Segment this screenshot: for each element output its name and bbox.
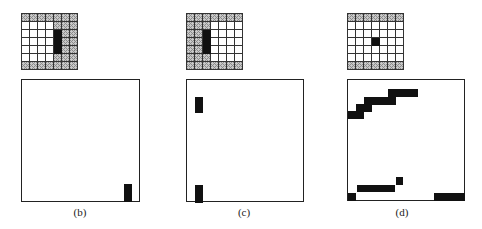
grid-cell [388,22,396,30]
grid-cell [388,62,396,70]
grid-cell [38,30,46,38]
grid-cell [219,30,227,38]
grid-cell [364,46,372,54]
grid-cell [219,22,227,30]
grid-cell [203,14,211,22]
grid-cell [388,46,396,54]
grid-cell [195,46,203,54]
grid-cell [364,30,372,38]
grid-cell [372,30,380,38]
output-box-d [347,79,465,201]
grid-cell [30,54,38,62]
grid-cell [364,62,372,70]
grid-cell [235,46,243,54]
grid-cell [356,22,364,30]
grid-cell [227,54,235,62]
response-block [124,184,132,202]
grid-cell [380,14,388,22]
grid-cell [396,46,404,54]
grid-cell [356,62,364,70]
grid-cell [364,54,372,62]
grid-cell [203,54,211,62]
caption-b: (b) [60,206,100,218]
grid-cell [195,14,203,22]
grid-cell [187,62,195,70]
grid-cell [54,54,62,62]
response-block [195,97,203,113]
grid-cell [364,38,372,46]
grid-cell [348,62,356,70]
grid-cell [396,30,404,38]
grid-cell [372,38,380,46]
grid-cell [348,30,356,38]
grid-cell [70,46,78,54]
grid-cell [219,62,227,70]
grid-cell [22,14,30,22]
grid-cell [380,46,388,54]
grid-cell [54,38,62,46]
grid-cell [211,22,219,30]
grid-cell [187,30,195,38]
grid-cell [70,38,78,46]
grid-cell [46,14,54,22]
grid-cell [62,38,70,46]
grid-cell [187,38,195,46]
grid-cell [364,22,372,30]
response-block [195,185,203,203]
grid-cell [211,14,219,22]
grid-cell [380,30,388,38]
grid-cell [348,14,356,22]
grid-cell [46,54,54,62]
grid-cell [227,22,235,30]
grid-cell [38,62,46,70]
grid-cell [348,22,356,30]
grid-cell [372,62,380,70]
grid-cell [54,62,62,70]
grid-cell [388,14,396,22]
grid-cell [235,38,243,46]
grid-cell [62,46,70,54]
grid-cell [372,46,380,54]
grid-cell [30,46,38,54]
grid-cell [195,54,203,62]
grid-cell [195,62,203,70]
grid-cell [30,30,38,38]
grid-cell [388,38,396,46]
grid-cell [30,38,38,46]
grid-cell [227,30,235,38]
grid-cell [54,22,62,30]
grid-cell [356,14,364,22]
grid-cell [22,22,30,30]
kernel-grid-b [21,13,78,70]
grid-cell [356,54,364,62]
grid-cell [211,46,219,54]
grid-cell [380,38,388,46]
grid-cell [203,30,211,38]
grid-cell [38,54,46,62]
grid-cell [62,30,70,38]
response-block [348,193,356,201]
grid-cell [372,54,380,62]
response-block [357,185,395,192]
grid-cell [227,38,235,46]
grid-cell [187,46,195,54]
grid-cell [70,30,78,38]
grid-cell [203,38,211,46]
grid-cell [219,54,227,62]
grid-cell [219,46,227,54]
response-block [434,193,465,201]
grid-cell [211,62,219,70]
grid-cell [54,14,62,22]
grid-cell [30,22,38,30]
grid-cell [62,14,70,22]
grid-cell [235,62,243,70]
grid-cell [30,14,38,22]
grid-cell [203,22,211,30]
grid-cell [219,14,227,22]
grid-cell [195,38,203,46]
grid-cell [227,62,235,70]
grid-cell [235,22,243,30]
grid-cell [38,22,46,30]
response-block [396,177,403,185]
grid-cell [195,30,203,38]
